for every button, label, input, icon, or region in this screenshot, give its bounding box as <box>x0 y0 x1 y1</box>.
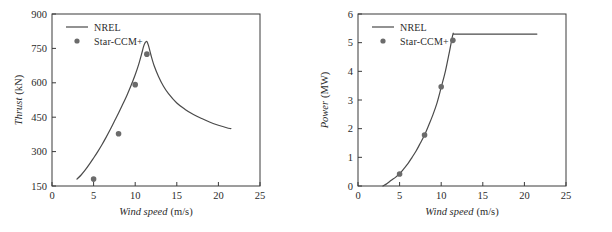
t-x-tick-label: 10 <box>130 190 141 201</box>
p-x-tick-label: 15 <box>478 190 489 201</box>
t-y-tick-label: 600 <box>31 77 47 88</box>
thrust-nrel-curve <box>77 41 231 179</box>
thrust-x-axis-title: Wind speed(m/s) <box>119 206 193 218</box>
p-x-tick-label: 0 <box>355 190 360 201</box>
power-nrel-curve <box>383 33 537 186</box>
thrust-plot-frame <box>52 14 260 186</box>
p-data-point <box>422 132 428 138</box>
p-x-tick-label: 5 <box>397 190 402 201</box>
thrust-x-tick-labels: 0510152025 <box>49 190 265 201</box>
t-data-point <box>91 176 97 182</box>
power-x-tick-labels: 0510152025 <box>355 190 571 201</box>
power-y-ticks <box>358 14 362 186</box>
power-y-tick-labels: 0123456 <box>348 9 354 192</box>
power-y-axis-title: Power(MW) <box>319 71 331 129</box>
t-x-tick-label: 5 <box>91 190 96 201</box>
thrust-legend: NREL Star-CCM+ <box>66 22 143 47</box>
p-y-tick-label: 0 <box>348 181 353 192</box>
legend-label-nrel: NREL <box>400 22 427 33</box>
thrust-starccm-markers <box>91 51 150 182</box>
p-x-tick-label: 25 <box>561 190 572 201</box>
p-y-tick-label: 1 <box>348 152 353 163</box>
power-chart-svg: 0123456 0510152025 NREL Star-CCM+ Wind s… <box>306 0 612 232</box>
t-y-tick-label: 150 <box>31 181 47 192</box>
t-data-point <box>116 131 122 137</box>
legend-label-starccm: Star-CCM+ <box>94 36 143 47</box>
chart-panel-thrust: 150300450600750900 0510152025 NREL Star-… <box>0 0 306 232</box>
p-y-tick-label: 5 <box>348 37 353 48</box>
t-y-tick-label: 750 <box>31 43 47 54</box>
t-y-tick-label: 900 <box>31 9 47 20</box>
legend-label-starccm: Star-CCM+ <box>400 36 449 47</box>
p-data-point <box>438 84 444 90</box>
p-data-point <box>397 171 403 177</box>
power-plot-frame <box>358 14 566 186</box>
t-x-tick-label: 25 <box>255 190 266 201</box>
legend-label-nrel: NREL <box>94 22 121 33</box>
p-y-tick-label: 6 <box>348 9 353 20</box>
t-x-tick-label: 20 <box>213 190 224 201</box>
p-x-tick-label: 10 <box>436 190 447 201</box>
p-y-tick-label: 2 <box>348 123 353 134</box>
t-data-point <box>132 82 138 88</box>
thrust-x-ticks <box>52 182 260 186</box>
p-y-tick-label: 3 <box>348 95 353 106</box>
thrust-y-axis-title: Thrust(kN) <box>13 74 25 125</box>
chart-panel-power: 0123456 0510152025 NREL Star-CCM+ Wind s… <box>306 0 612 232</box>
thrust-y-ticks <box>52 14 56 186</box>
p-data-point <box>450 38 456 44</box>
t-data-point <box>144 51 150 57</box>
p-x-tick-label: 20 <box>519 190 530 201</box>
thrust-chart-svg: 150300450600750900 0510152025 NREL Star-… <box>0 0 306 232</box>
p-y-tick-label: 4 <box>348 66 354 77</box>
power-x-axis-title: Wind speed(m/s) <box>425 206 499 218</box>
t-x-tick-label: 0 <box>49 190 54 201</box>
power-legend: NREL Star-CCM+ <box>372 22 449 47</box>
t-y-tick-label: 450 <box>31 112 47 123</box>
thrust-y-tick-labels: 150300450600750900 <box>31 9 47 192</box>
t-x-tick-label: 15 <box>172 190 183 201</box>
legend-marker-sample <box>74 38 79 43</box>
t-y-tick-label: 300 <box>31 146 47 157</box>
power-starccm-markers <box>397 38 456 177</box>
figure-container: 150300450600750900 0510152025 NREL Star-… <box>0 0 612 232</box>
legend-marker-sample <box>380 38 385 43</box>
